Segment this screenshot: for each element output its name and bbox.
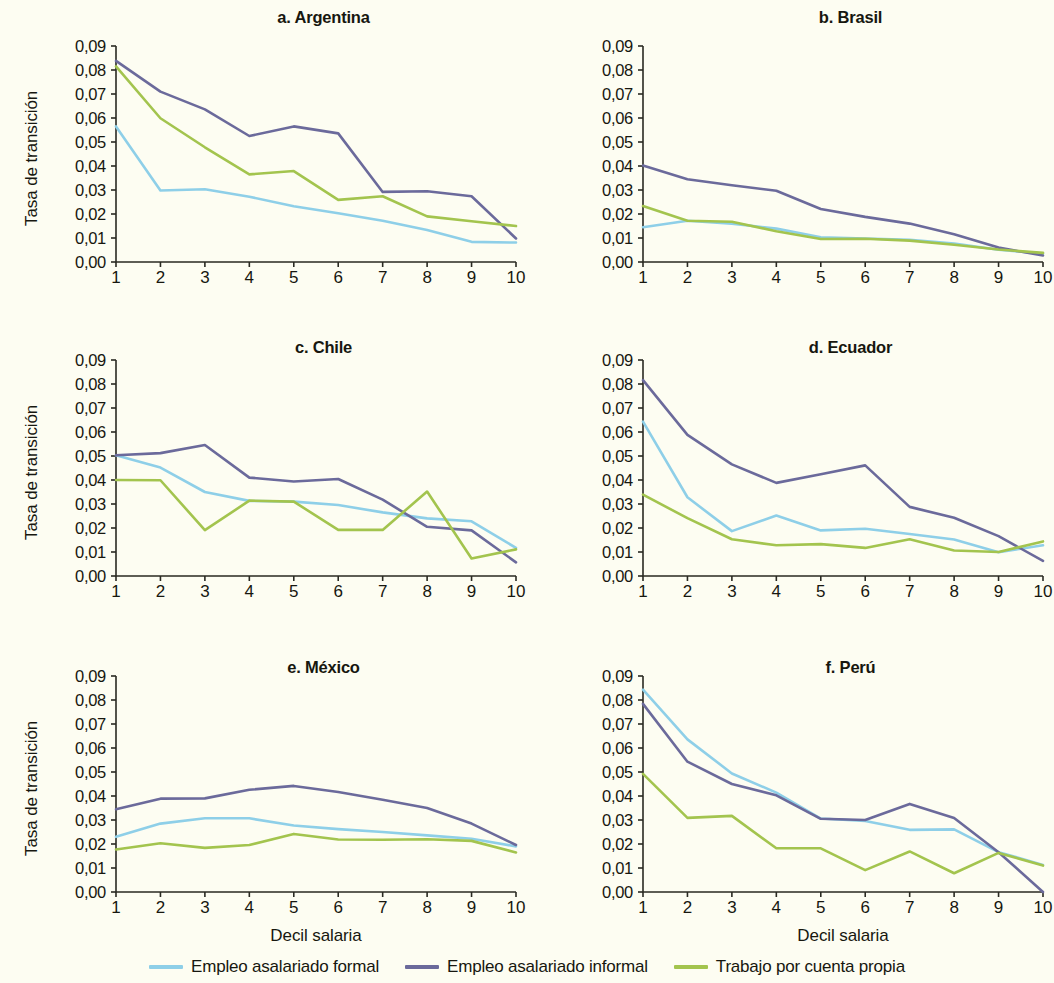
panel-a-argentina: a. Argentina 0,000,010,020,030,040,050,0… [0,0,527,330]
chart-canvas [0,330,527,660]
legend-label: Empleo asalariado formal [191,957,379,977]
series-line [116,61,516,239]
legend-item-cuenta-propia: Trabajo por cuenta propia [674,957,905,977]
chart-canvas [0,0,527,330]
chart-canvas [0,650,527,980]
panel-e-mexico: e. México 0,000,010,020,030,040,050,060,… [0,650,527,950]
panel-d-ecuador: d. Ecuador 0,000,010,020,030,040,050,060… [527,330,1054,650]
plot-area: 0,000,010,020,030,040,050,060,070,080,09… [0,330,527,650]
plot-area: 0,000,010,020,030,040,050,060,070,080,09… [527,650,1054,950]
plot-area: 0,000,010,020,030,040,050,060,070,080,09… [0,0,527,330]
axis-spine [116,46,516,262]
figure-legend: Empleo asalariado formal Empleo asalaria… [0,957,1054,977]
axis-spine [643,46,1043,262]
plot-area: 0,000,010,020,030,040,050,060,070,080,09… [527,0,1054,330]
series-line [643,704,1043,892]
chart-canvas [527,650,1054,980]
panel-b-brasil: b. Brasil 0,000,010,020,030,040,050,060,… [527,0,1054,330]
axis-spine [643,360,1043,576]
legend-item-formal: Empleo asalariado formal [149,957,379,977]
chart-canvas [527,0,1054,330]
legend-line-icon [149,965,183,969]
legend-line-icon [674,965,708,969]
axis-spine [116,676,516,892]
chart-canvas [527,330,1054,660]
figure-root: a. Argentina 0,000,010,020,030,040,050,0… [0,0,1054,983]
series-line [643,380,1043,561]
legend-line-icon [405,965,439,969]
legend-label: Empleo asalariado informal [447,957,648,977]
series-line [643,774,1043,873]
panel-c-chile: c. Chile 0,000,010,020,030,040,050,060,0… [0,330,527,650]
panel-f-peru: f. Perú 0,000,010,020,030,040,050,060,07… [527,650,1054,950]
axis-spine [116,360,516,576]
series-line [643,422,1043,553]
series-line [643,495,1043,552]
series-line [116,818,516,846]
series-line [643,166,1043,256]
panel-grid: a. Argentina 0,000,010,020,030,040,050,0… [0,0,1054,950]
series-line [116,66,516,226]
plot-area: 0,000,010,020,030,040,050,060,070,080,09… [527,330,1054,650]
legend-item-informal: Empleo asalariado informal [405,957,648,977]
legend-label: Trabajo por cuenta propia [716,957,905,977]
plot-area: 0,000,010,020,030,040,050,060,070,080,09… [0,650,527,950]
